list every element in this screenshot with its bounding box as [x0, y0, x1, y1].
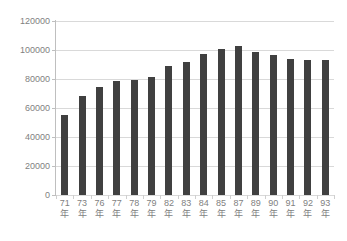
bar-85[interactable] — [218, 49, 225, 195]
x-tick-label-76: 76年 — [91, 198, 108, 220]
x-tick-mark — [265, 195, 266, 199]
bar-83[interactable] — [183, 62, 190, 195]
bar-79[interactable] — [148, 77, 155, 195]
bar-77[interactable] — [113, 81, 120, 195]
x-tick-mark — [334, 195, 335, 199]
bar-84[interactable] — [200, 54, 207, 195]
x-tick-label-78: 78年 — [126, 198, 143, 220]
bar-slot — [265, 21, 282, 195]
bar-slot — [91, 21, 108, 195]
x-tick-label-83: 83年 — [178, 198, 195, 220]
x-tick-label-77: 77年 — [108, 198, 125, 220]
bar-90[interactable] — [270, 55, 277, 195]
x-tick-mark — [317, 195, 318, 199]
x-tick-mark — [230, 195, 231, 199]
x-tick-label-73: 73年 — [73, 198, 90, 220]
x-tick-label-82: 82年 — [160, 198, 177, 220]
x-tick-label-92: 92年 — [299, 198, 316, 220]
bar-series — [56, 21, 334, 195]
bar-87[interactable] — [235, 46, 242, 195]
bar-slot — [108, 21, 125, 195]
x-tick-mark — [143, 195, 144, 199]
bar-slot — [317, 21, 334, 195]
bar-slot — [160, 21, 177, 195]
x-tick-label-90: 90年 — [265, 198, 282, 220]
bar-slot — [126, 21, 143, 195]
bar-slot — [143, 21, 160, 195]
x-tick-mark — [160, 195, 161, 199]
x-tick-mark — [108, 195, 109, 199]
x-tick-label-91: 91年 — [282, 198, 299, 220]
x-tick-mark — [56, 195, 57, 199]
x-tick-mark — [73, 195, 74, 199]
bar-slot — [282, 21, 299, 195]
bar-slot — [73, 21, 90, 195]
bar-89[interactable] — [252, 52, 259, 195]
bar-slot — [56, 21, 73, 195]
bar-73[interactable] — [79, 96, 86, 195]
bar-slot — [230, 21, 247, 195]
x-tick-mark — [299, 195, 300, 199]
x-tick-mark — [178, 195, 179, 199]
bar-82[interactable] — [165, 66, 172, 195]
bar-78[interactable] — [131, 80, 138, 195]
x-tick-label-87: 87年 — [230, 198, 247, 220]
bar-slot — [299, 21, 316, 195]
bar-slot — [247, 21, 264, 195]
y-tick-label-100000: 100000 — [0, 45, 50, 55]
x-tick-label-93: 93年 — [317, 198, 334, 220]
bar-91[interactable] — [287, 59, 294, 195]
bar-slot — [212, 21, 229, 195]
bar-slot — [195, 21, 212, 195]
x-tick-mark — [126, 195, 127, 199]
y-tick-label-80000: 80000 — [0, 74, 50, 84]
y-tick-label-60000: 60000 — [0, 103, 50, 113]
y-tick-label-20000: 20000 — [0, 161, 50, 171]
bar-92[interactable] — [304, 60, 311, 195]
x-tick-label-89: 89年 — [247, 198, 264, 220]
y-tick-label-0: 0 — [0, 190, 50, 200]
plot-area — [56, 21, 334, 195]
x-tick-mark — [282, 195, 283, 199]
bar-slot — [178, 21, 195, 195]
bar-71[interactable] — [61, 115, 68, 195]
x-tick-mark — [247, 195, 248, 199]
bar-76[interactable] — [96, 87, 103, 195]
x-tick-label-71: 71年 — [56, 198, 73, 220]
x-tick-mark — [212, 195, 213, 199]
x-tick-label-79: 79年 — [143, 198, 160, 220]
y-tick-label-120000: 120000 — [0, 16, 50, 26]
x-tick-mark — [91, 195, 92, 199]
x-axis-tick-labels: 71年73年76年77年78年79年82年83年84年85年87年89年90年9… — [56, 198, 334, 220]
x-tick-label-85: 85年 — [212, 198, 229, 220]
bar-93[interactable] — [322, 60, 329, 195]
y-tick-label-40000: 40000 — [0, 132, 50, 142]
x-tick-mark — [195, 195, 196, 199]
bar-chart: 020000400006000080000100000120000 71年73年… — [0, 0, 347, 241]
x-tick-label-84: 84年 — [195, 198, 212, 220]
